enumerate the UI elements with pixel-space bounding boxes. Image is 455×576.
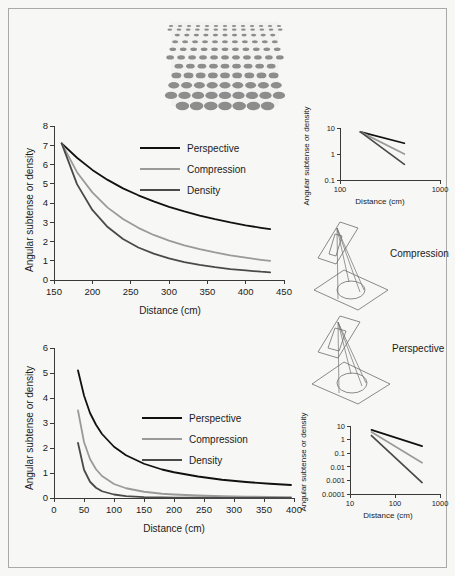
svg-text:100: 100 — [389, 499, 402, 508]
top-chart-ylabel: Angular subtense or density — [24, 148, 35, 272]
top-linear-chart: 012345678150200250300350400450 Perspecti… — [22, 118, 302, 318]
top-inset-ylabel: Angular subtense or density — [302, 106, 311, 205]
bottom-linear-chart: 0123456050100150200250300350400 Perspect… — [22, 340, 312, 540]
svg-text:Compression: Compression — [187, 164, 246, 175]
perspective-diagram: Perspective — [302, 302, 450, 406]
svg-text:1000: 1000 — [432, 185, 449, 194]
figure-root: 012345678150200250300350400450 Perspecti… — [0, 0, 455, 576]
svg-text:7: 7 — [43, 140, 48, 151]
svg-text:0: 0 — [51, 504, 56, 515]
compression-diagram-label: Compression — [390, 248, 449, 259]
bottom-loglog-inset: 0.00010.0010.010.1110101001000 Distance … — [298, 412, 450, 524]
svg-text:0: 0 — [43, 274, 48, 285]
svg-text:0.01: 0.01 — [330, 463, 345, 472]
svg-text:4: 4 — [43, 197, 48, 208]
svg-text:400: 400 — [238, 286, 254, 297]
svg-text:4: 4 — [43, 392, 48, 403]
svg-text:300: 300 — [161, 286, 177, 297]
compression-diagram: Compression — [302, 212, 450, 312]
svg-text:Density: Density — [187, 185, 220, 196]
top-chart-xlabel: Distance (cm) — [139, 305, 201, 316]
svg-text:100: 100 — [106, 504, 122, 515]
svg-text:10: 10 — [327, 124, 335, 133]
svg-text:3: 3 — [43, 217, 48, 228]
top-inset-xlabel: Distance (cm) — [355, 197, 405, 206]
svg-text:0.0001: 0.0001 — [322, 490, 345, 499]
svg-text:150: 150 — [46, 286, 62, 297]
svg-text:8: 8 — [43, 120, 48, 131]
svg-text:1: 1 — [43, 467, 48, 478]
svg-text:300: 300 — [226, 504, 242, 515]
svg-text:450: 450 — [276, 286, 292, 297]
svg-text:2: 2 — [43, 236, 48, 247]
svg-text:200: 200 — [84, 286, 100, 297]
svg-text:200: 200 — [166, 504, 182, 515]
svg-text:1: 1 — [341, 435, 345, 444]
svg-text:350: 350 — [199, 286, 215, 297]
svg-text:50: 50 — [79, 504, 90, 515]
svg-text:6: 6 — [43, 342, 48, 353]
picture-plane — [318, 222, 358, 264]
perspective-diagram-label: Perspective — [392, 343, 445, 354]
bottom-inset-xlabel: Distance (cm) — [363, 511, 413, 520]
svg-text:1: 1 — [43, 255, 48, 266]
svg-text:5: 5 — [43, 178, 48, 189]
svg-text:350: 350 — [256, 504, 272, 515]
picture-plane — [318, 316, 360, 358]
svg-text:10: 10 — [346, 499, 354, 508]
svg-text:Density: Density — [189, 455, 222, 466]
texture-gradient-patch — [163, 20, 287, 108]
svg-text:3: 3 — [43, 417, 48, 428]
svg-text:250: 250 — [196, 504, 212, 515]
bottom-chart-ylabel: Angular subtense or density — [24, 366, 35, 490]
svg-text:250: 250 — [123, 286, 139, 297]
bottom-chart-xlabel: Distance (cm) — [143, 523, 205, 534]
svg-text:10: 10 — [337, 422, 345, 431]
svg-text:6: 6 — [43, 159, 48, 170]
ground-ellipse — [337, 281, 365, 299]
svg-text:0: 0 — [43, 492, 48, 503]
svg-text:0.1: 0.1 — [325, 176, 335, 185]
svg-text:100: 100 — [334, 185, 347, 194]
svg-text:0.1: 0.1 — [335, 449, 345, 458]
svg-text:Perspective: Perspective — [189, 413, 242, 424]
svg-text:150: 150 — [136, 504, 152, 515]
svg-text:1000: 1000 — [432, 499, 449, 508]
svg-text:1: 1 — [331, 150, 335, 159]
bottom-inset-ylabel: Angular subtense or density — [299, 412, 308, 511]
ground-plane — [312, 362, 390, 404]
svg-text:5: 5 — [43, 367, 48, 378]
top-loglog-inset: 0.11101001000 Distance (cm) Angular subt… — [300, 118, 450, 208]
svg-text:0.001: 0.001 — [326, 476, 345, 485]
svg-text:Perspective: Perspective — [187, 143, 240, 154]
svg-text:2: 2 — [43, 442, 48, 453]
svg-text:Compression: Compression — [189, 434, 248, 445]
